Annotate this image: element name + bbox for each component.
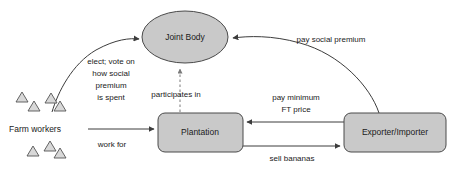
edge-sell-bananas-label: sell bananas bbox=[270, 154, 315, 163]
farm-worker-icon bbox=[44, 141, 56, 151]
edge-elect-vote-label-4: is spent bbox=[97, 93, 125, 102]
edge-elect-vote-label-3: premium bbox=[95, 81, 126, 90]
node-joint-body[interactable]: Joint Body bbox=[142, 11, 228, 63]
supply-chain-diagram: elect; vote on how social premium is spe… bbox=[0, 0, 450, 169]
joint-body-label: Joint Body bbox=[165, 32, 205, 42]
edge-participates-in-label: participates in bbox=[151, 90, 200, 99]
plantation-label: Plantation bbox=[181, 127, 219, 137]
edge-elect-vote-label-1: elect; vote on bbox=[87, 57, 135, 66]
edge-pay-minimum-ft-price-label-1: pay minimum bbox=[272, 93, 320, 102]
edge-participates-in: participates in bbox=[151, 69, 200, 112]
exporter-importer-label: Exporter/Importer bbox=[362, 127, 428, 137]
edge-work-for-label: work for bbox=[97, 140, 127, 149]
farm-worker-icon bbox=[28, 101, 40, 111]
edge-work-for: work for bbox=[88, 129, 154, 149]
edge-elect-vote-label-2: how social bbox=[92, 69, 130, 78]
farm-workers-label: Farm workers bbox=[9, 124, 61, 134]
node-plantation[interactable]: Plantation bbox=[158, 113, 243, 152]
farm-worker-icon bbox=[16, 92, 28, 102]
edge-pay-social-premium-label: pay social premium bbox=[297, 35, 366, 44]
node-exporter-importer[interactable]: Exporter/Importer bbox=[344, 113, 446, 152]
diagram-canvas: elect; vote on how social premium is spe… bbox=[0, 0, 450, 169]
farm-worker-icon bbox=[45, 93, 57, 103]
farm-worker-icon bbox=[27, 146, 39, 156]
edge-elect-vote: elect; vote on how social premium is spe… bbox=[52, 39, 139, 112]
node-farm-workers[interactable]: Farm workers bbox=[9, 92, 66, 158]
edge-pay-minimum-ft-price: pay minimum FT price bbox=[247, 93, 344, 122]
farm-worker-icon bbox=[54, 148, 66, 158]
edge-sell-bananas: sell bananas bbox=[243, 146, 340, 163]
edge-pay-minimum-ft-price-label-2: FT price bbox=[281, 105, 311, 114]
